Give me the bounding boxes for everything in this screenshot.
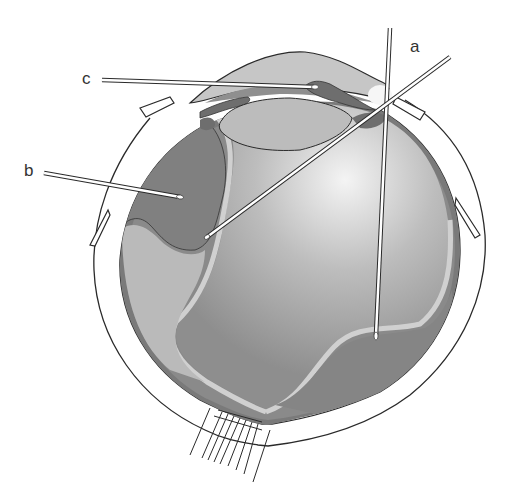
- label-c: c: [82, 70, 91, 87]
- eye-cross-section-diagram: [0, 0, 515, 498]
- label-b: b: [24, 162, 33, 179]
- cornea: [190, 52, 389, 103]
- label-a: a: [410, 38, 419, 55]
- left-upper-tab: [140, 97, 174, 117]
